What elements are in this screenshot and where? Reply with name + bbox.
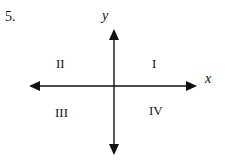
y-axis-up-arrow-icon <box>109 29 119 40</box>
y-axis-down-arrow-icon <box>109 144 119 155</box>
quadrant-label-ii: II <box>56 57 65 70</box>
coordinate-plane <box>0 0 231 167</box>
x-axis-right-arrow-icon <box>186 81 197 91</box>
quadrant-label-iii: III <box>55 106 68 119</box>
x-axis-label: x <box>205 72 211 86</box>
quadrant-label-i: I <box>152 57 156 70</box>
y-axis-label: y <box>102 9 108 23</box>
quadrant-label-iv: IV <box>149 104 163 117</box>
x-axis-left-arrow-icon <box>29 81 40 91</box>
